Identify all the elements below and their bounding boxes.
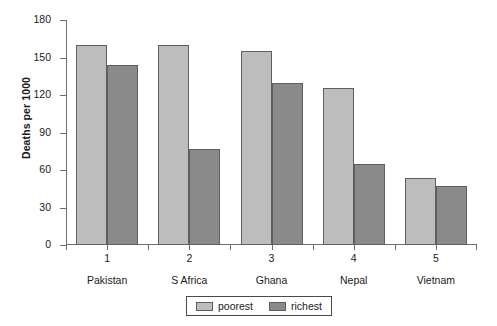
y-axis-tick-label: 180 [17, 13, 51, 25]
y-axis-line [66, 20, 67, 245]
y-axis-tick: 180 [60, 20, 66, 21]
legend-swatch-poorest [196, 302, 213, 311]
x-axis-tick [272, 245, 273, 250]
bar-poorest [241, 51, 272, 245]
bar-poorest [158, 45, 189, 245]
y-axis-tick-label: 90 [17, 126, 51, 138]
bar-group [241, 20, 303, 245]
y-axis-tick-label: 30 [17, 201, 51, 213]
legend-swatch-richest [269, 302, 286, 311]
plot-area: 0306090120150180 [66, 20, 477, 245]
bar-richest [107, 65, 138, 245]
y-axis-tick: 60 [60, 170, 66, 171]
x-axis-category-label: Pakistan [87, 274, 127, 286]
x-axis-category-label: S Africa [171, 274, 207, 286]
legend-entry-poorest: poorest [196, 300, 253, 312]
x-axis-tick [107, 245, 108, 250]
x-axis-boundary-tick [476, 245, 477, 250]
y-axis-tick-label: 120 [17, 88, 51, 100]
bar-richest [354, 164, 385, 245]
y-axis-tick: 150 [60, 58, 66, 59]
legend-entry-richest: richest [269, 300, 322, 312]
bar-group [405, 20, 467, 245]
bar-richest [272, 83, 303, 246]
x-axis-boundary-tick [313, 245, 314, 250]
x-axis-boundary-tick [230, 245, 231, 250]
x-axis-number-label: 1 [104, 252, 110, 264]
bar-group [158, 20, 220, 245]
legend-label-poorest: poorest [218, 300, 253, 312]
x-axis-category-label: Ghana [256, 274, 288, 286]
x-axis-boundary-tick [66, 245, 67, 250]
x-axis-category-label: Nepal [340, 274, 367, 286]
x-axis-boundary-tick [148, 245, 149, 250]
x-axis-tick [354, 245, 355, 250]
x-axis-category-label: Vietnam [417, 274, 455, 286]
x-axis-number-label: 4 [351, 252, 357, 264]
y-axis-tick: 30 [60, 208, 66, 209]
bar-group [76, 20, 138, 245]
x-axis-boundary-tick [395, 245, 396, 250]
bar-poorest [405, 178, 436, 246]
bar-richest [189, 149, 220, 245]
bar-group [323, 20, 385, 245]
x-axis-tick [436, 245, 437, 250]
x-axis-number-label: 2 [186, 252, 192, 264]
legend-label-richest: richest [291, 300, 322, 312]
y-axis-tick: 90 [60, 133, 66, 134]
bar-richest [436, 186, 467, 245]
bar-poorest [323, 88, 354, 246]
bar-poorest [76, 45, 107, 245]
y-axis-tick-label: 0 [17, 238, 51, 250]
bar-chart: Deaths per 1000 0306090120150180 1Pakist… [0, 0, 497, 326]
y-axis-tick: 120 [60, 95, 66, 96]
y-axis-tick-label: 150 [17, 51, 51, 63]
x-axis-number-label: 3 [269, 252, 275, 264]
chart-legend: poorest richest [186, 296, 332, 316]
x-axis-number-label: 5 [433, 252, 439, 264]
y-axis-tick-label: 60 [17, 163, 51, 175]
x-axis-tick [189, 245, 190, 250]
